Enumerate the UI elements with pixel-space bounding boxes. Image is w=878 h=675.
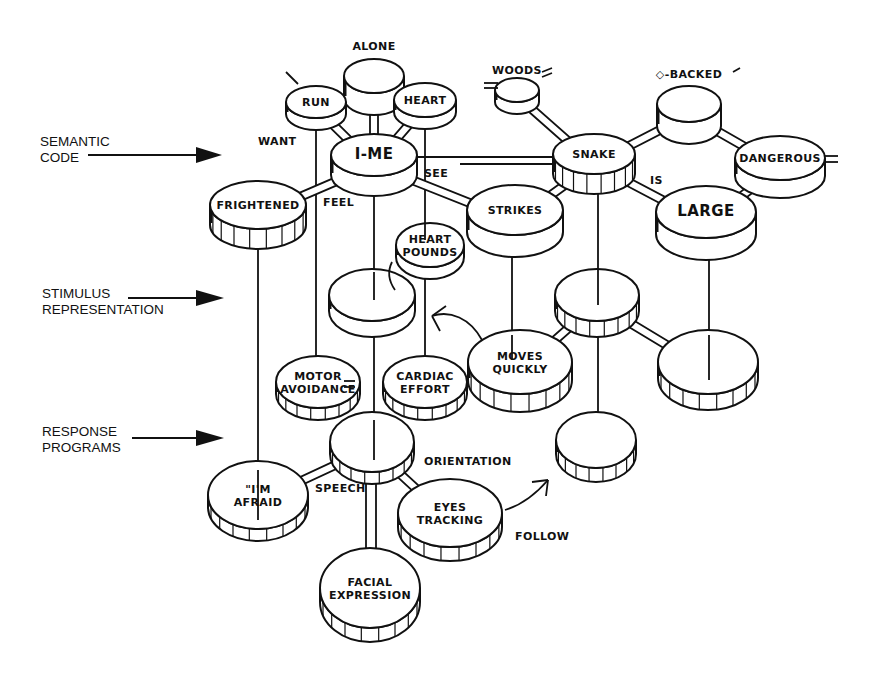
- node-large: LARGE: [656, 186, 756, 260]
- node-label: STRIKES: [488, 204, 543, 217]
- disc-top: [495, 78, 539, 102]
- node-label: AVOIDANCE: [280, 383, 356, 396]
- stub: [286, 72, 298, 84]
- disc-top: [658, 330, 758, 394]
- node-facial-expression: FACIALEXPRESSION: [320, 548, 420, 642]
- disc-top: [555, 269, 639, 321]
- node-label: FACIAL: [348, 576, 393, 589]
- node-label: SNAKE: [572, 148, 616, 161]
- edge-label-speech: SPEECH: [315, 482, 366, 495]
- semantic-network-diagram: SEMANTIC CODE STIMULUS REPRESENTATION RE…: [0, 0, 878, 675]
- node-label: EXPRESSION: [329, 589, 411, 602]
- level-arrow-head-icon: [196, 290, 224, 306]
- node-i-me: I-ME: [331, 134, 417, 196]
- edge-label-follow: FOLLOW: [515, 530, 569, 543]
- node-label: QUICKLY: [492, 363, 548, 376]
- node-caption: ALONE: [352, 40, 395, 53]
- node-label: I-ME: [355, 145, 394, 163]
- level-semantic-code: SEMANTIC CODE: [40, 134, 222, 165]
- node-woods: WOODS: [492, 64, 542, 114]
- node-label: FRIGHTENED: [216, 199, 299, 212]
- level-arrow-head-icon: [196, 430, 224, 446]
- node-label: TRACKING: [417, 514, 484, 527]
- node-label: LARGE: [677, 202, 734, 220]
- disc-top: [329, 269, 415, 321]
- node-snake: SNAKE: [553, 134, 635, 194]
- arrow-moves-to-stim-curve: [432, 314, 482, 340]
- level-response-programs: RESPONSE PROGRAMS: [42, 424, 224, 455]
- edge-label-want: WANT: [258, 135, 297, 148]
- level-label-line-2: CODE: [40, 150, 79, 165]
- node-label: CARDIAC: [396, 370, 454, 383]
- level-label-line-2: PROGRAMS: [42, 440, 121, 455]
- node-label: EYES: [434, 501, 467, 514]
- node-backed: ◇-BACKED: [656, 68, 722, 144]
- node-resp-center: [330, 412, 414, 484]
- disc-top: [330, 412, 414, 472]
- node-label: MOVES: [497, 350, 543, 363]
- node-motor-avoidance: MOTORAVOIDANCE: [276, 356, 360, 420]
- node-stim-snake: [555, 269, 639, 337]
- stub: [542, 73, 552, 77]
- arrow-moves-to-stim-head-icon: [432, 306, 446, 331]
- node-label: POUNDS: [402, 246, 457, 259]
- edge-label-is: IS: [650, 174, 663, 187]
- node-discs: ALONERUNHEARTI-MEFRIGHTENEDWOODS◇-BACKED…: [208, 40, 825, 642]
- stub: [733, 68, 740, 72]
- node-frightened: FRIGHTENED: [210, 181, 306, 249]
- node-eyes-tracking: EYESTRACKING: [398, 479, 502, 561]
- node-dangerous: DANGEROUS: [735, 136, 825, 198]
- node-label: MOTOR: [294, 370, 342, 383]
- node-stim-self: [329, 269, 415, 337]
- node-label: EFFORT: [400, 383, 450, 396]
- level-label-line-1: SEMANTIC: [40, 134, 110, 149]
- node-label: RUN: [302, 96, 330, 109]
- node-heart: HEART: [394, 83, 456, 129]
- node-label: HEART: [404, 94, 447, 107]
- node-caption: ◇-BACKED: [656, 68, 722, 81]
- level-label-line-2: REPRESENTATION: [42, 302, 164, 317]
- node-heart-pounds: HEARTPOUNDS: [396, 223, 464, 279]
- node-label: HEART: [409, 233, 452, 246]
- node-moves-quickly: MOVESQUICKLY: [468, 330, 572, 412]
- edge-label-orientation: ORIENTATION: [424, 455, 512, 468]
- edge-label-feel: FEEL: [323, 196, 354, 209]
- disc-top: [344, 59, 404, 93]
- level-stimulus-representation: STIMULUS REPRESENTATION: [42, 286, 224, 317]
- node-label: DANGEROUS: [739, 152, 821, 165]
- arrow-follow-curve: [505, 480, 548, 510]
- level-label-line-1: RESPONSE: [42, 424, 117, 439]
- disc-top: [556, 412, 636, 468]
- node-cardiac-effort: CARDIACEFFORT: [383, 356, 467, 420]
- disc-top: [657, 86, 721, 122]
- level-label-line-1: STIMULUS: [42, 286, 110, 301]
- level-arrow-head-icon: [196, 147, 222, 163]
- node-strikes: STRIKES: [467, 185, 563, 257]
- vertical-links: [258, 108, 709, 510]
- stub: [542, 68, 552, 72]
- edge-label-see: SEE: [424, 167, 448, 180]
- node-caption: WOODS: [492, 64, 542, 77]
- node-run: RUN: [286, 86, 346, 130]
- node-stim-large: [658, 330, 758, 410]
- node-resp-snake: [556, 412, 636, 482]
